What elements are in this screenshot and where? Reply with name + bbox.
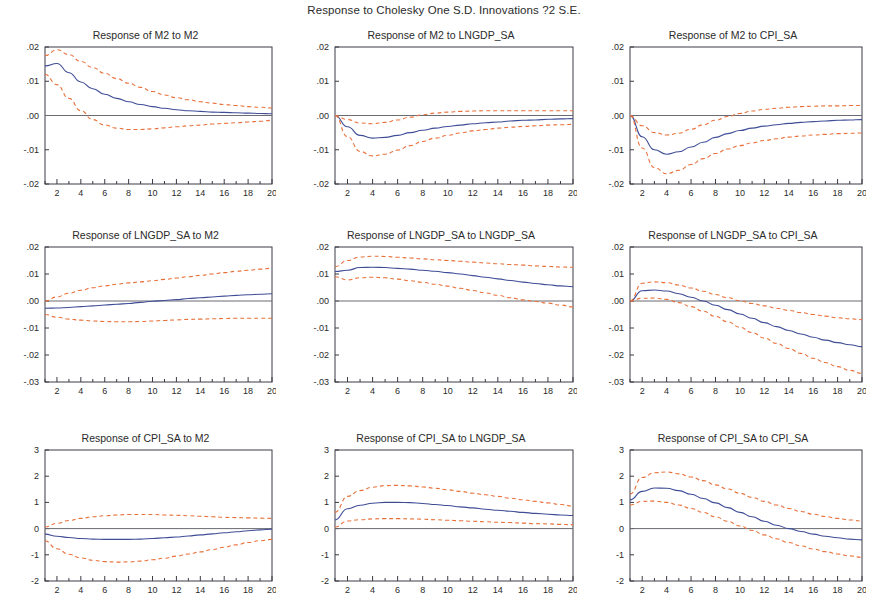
x-tick-label: 10 [735,585,745,595]
y-tick-label: .00 [611,111,624,121]
x-tick-label: 18 [543,585,553,595]
confidence-band-line [45,268,272,301]
confidence-band-line [630,298,862,373]
x-tick-label: 16 [518,386,528,396]
x-tick-label: 20 [267,188,276,198]
x-tick-label: 2 [345,585,350,595]
y-tick-label: -1 [31,550,39,560]
x-tick-label: 4 [78,386,83,396]
y-tick-label: 2 [619,471,624,481]
chart-panel-cpi-sa-to-cpi-sa: Response of CPI_SA to CPI_SA 3210-1-2246… [600,432,866,601]
plot-area: .02.01.00-.01-.02-.032468101214161820 [305,229,577,402]
x-tick-label: 2 [54,585,59,595]
x-tick-label: 18 [543,188,553,198]
plot-frame [630,247,862,382]
plot-area: 3210-1-22468101214161820 [305,432,577,601]
x-tick-label: 10 [735,188,745,198]
x-tick-label: 20 [857,386,866,396]
x-tick-label: 18 [833,386,843,396]
x-tick-label: 10 [443,585,453,595]
chart-panel-cpi-sa-to-lngdp-sa: Response of CPI_SA to LNGDP_SA 3210-1-22… [305,432,577,601]
x-tick-label: 8 [713,585,718,595]
x-tick-label: 6 [395,188,400,198]
y-tick-label: .00 [26,111,39,121]
x-tick-label: 2 [640,386,645,396]
x-tick-label: 2 [640,188,645,198]
confidence-band-line [335,485,573,512]
plot-area: 3210-1-22468101214161820 [600,432,866,601]
response-line [45,529,272,539]
x-tick-label: 16 [808,585,818,595]
x-tick-label: 4 [664,585,669,595]
y-tick-label: -.01 [23,323,39,333]
x-tick-label: 12 [759,585,769,595]
y-tick-label: .00 [611,296,624,306]
x-tick-label: 12 [468,585,478,595]
x-tick-label: 20 [857,585,866,595]
y-tick-label: .01 [26,76,39,86]
y-tick-label: .02 [26,242,39,252]
y-tick-label: .02 [26,42,39,52]
chart-panel-lngdp-sa-to-lngdp-sa: Response of LNGDP_SA to LNGDP_SA .02.01.… [305,229,577,402]
figure-title: Response to Cholesky One S.D. Innovation… [0,4,888,16]
y-tick-label: -2 [31,576,39,586]
y-tick-label: 2 [34,471,39,481]
confidence-band-line [45,315,272,322]
confidence-band-line [45,74,272,129]
response-line [335,116,573,139]
x-tick-label: 2 [640,585,645,595]
x-tick-label: 4 [78,585,83,595]
y-tick-label: .02 [316,42,329,52]
plot-area: .02.01.00-.01-.02-.032468101214161820 [600,229,866,402]
x-tick-label: 10 [443,386,453,396]
x-tick-label: 6 [689,585,694,595]
x-tick-label: 2 [54,386,59,396]
y-tick-label: 3 [324,445,329,455]
chart-panel-lngdp-sa-to-m2: Response of LNGDP_SA to M2 .02.01.00-.01… [15,229,276,402]
y-tick-label: -.02 [313,179,329,189]
confidence-band-line [630,106,862,135]
y-tick-label: .00 [316,111,329,121]
y-tick-label: 0 [34,524,39,534]
x-tick-label: 18 [833,585,843,595]
x-tick-label: 4 [664,188,669,198]
x-tick-label: 20 [267,585,276,595]
confidence-band-line [335,111,573,124]
plot-area: 3210-1-22468101214161820 [15,432,276,601]
y-tick-label: -1 [321,550,329,560]
y-tick-label: .01 [316,76,329,86]
response-line [630,290,862,347]
x-tick-label: 8 [126,188,131,198]
confidence-band-line [630,116,862,174]
y-tick-label: .02 [611,42,624,52]
x-tick-label: 8 [420,386,425,396]
x-tick-label: 18 [833,188,843,198]
x-tick-label: 14 [784,188,794,198]
confidence-band-line [335,519,573,527]
y-tick-label: .00 [26,296,39,306]
x-tick-label: 16 [219,188,229,198]
x-tick-label: 10 [148,188,158,198]
x-tick-label: 12 [468,188,478,198]
y-tick-label: 1 [324,497,329,507]
x-tick-label: 18 [543,386,553,396]
x-tick-label: 8 [713,188,718,198]
x-tick-label: 6 [689,188,694,198]
chart-panel-m2-to-cpi-sa: Response of M2 to CPI_SA .02.01.00-.01-.… [600,29,866,204]
x-tick-label: 6 [102,386,107,396]
x-tick-label: 14 [195,585,205,595]
x-tick-label: 4 [370,585,375,595]
y-tick-label: -1 [616,550,624,560]
x-tick-label: 8 [126,386,131,396]
x-tick-label: 20 [568,188,577,198]
x-tick-label: 18 [243,585,253,595]
x-tick-label: 16 [808,386,818,396]
y-tick-label: -.03 [313,377,329,387]
y-tick-label: 0 [324,524,329,534]
y-tick-label: -.03 [608,377,624,387]
y-tick-label: .00 [316,296,329,306]
y-tick-label: .01 [611,269,624,279]
plot-area: .02.01.00-.01-.02-.032468101214161820 [15,229,276,402]
y-tick-label: -.01 [608,323,624,333]
plot-area: .02.01.00-.01-.022468101214161820 [15,29,276,204]
